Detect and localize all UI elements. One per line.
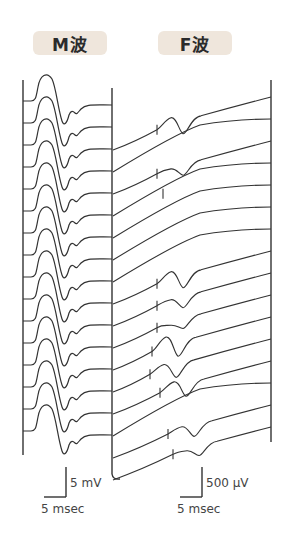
m-wave-panel [23,75,112,454]
f-wave-time-label: 5 msec [177,502,220,516]
f-wave-amplitude-label: 500 μV [206,476,249,490]
panel-borders [23,80,271,479]
f-wave-scale-bar [180,467,202,497]
f-wave-trace [113,317,271,370]
m-wave-scale-bar [44,467,66,497]
emg-traces [0,0,294,554]
f-wave-trace [113,273,271,326]
m-wave-time-label: 5 msec [41,502,84,516]
f-wave-trace [113,251,271,304]
f-wave-trace [113,97,271,150]
f-wave-trace [113,207,271,260]
f-wave-trace [113,383,271,436]
f-wave-trace [113,361,271,414]
f-wave-trace [113,229,271,282]
m-wave-amplitude-label: 5 mV [70,476,101,490]
f-wave-trace [113,295,271,348]
f-wave-trace [113,405,271,458]
f-wave-panel [113,97,271,480]
m-wave-trace [23,405,112,454]
